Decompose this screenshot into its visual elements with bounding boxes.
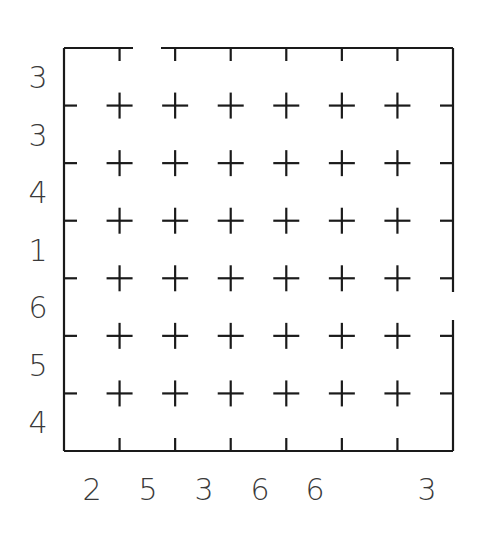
- left-clue-1: 3: [23, 121, 53, 151]
- plus-icon: [273, 323, 299, 349]
- plus-icon: [273, 93, 299, 119]
- plus-icon: [218, 93, 244, 119]
- plus-icon: [218, 323, 244, 349]
- plus-icon: [162, 150, 188, 176]
- plus-icon: [273, 208, 299, 234]
- plus-icon: [329, 93, 355, 119]
- plus-icon: [384, 323, 410, 349]
- plus-icon: [384, 93, 410, 119]
- bottom-clue-3: 6: [245, 475, 275, 505]
- plus-icon: [162, 208, 188, 234]
- plus-icon: [384, 380, 410, 406]
- plus-icon: [384, 208, 410, 234]
- plus-icon: [273, 150, 299, 176]
- plus-icon: [218, 208, 244, 234]
- plus-icon: [107, 150, 133, 176]
- plus-icon: [162, 380, 188, 406]
- left-clue-4: 6: [23, 293, 53, 323]
- left-clue-2: 4: [23, 178, 53, 208]
- bottom-clue-2: 3: [189, 475, 219, 505]
- plus-icon: [329, 208, 355, 234]
- plus-icon: [273, 265, 299, 291]
- bottom-clue-4: 6: [300, 475, 330, 505]
- puzzle-board: [0, 0, 482, 536]
- plus-icon: [162, 323, 188, 349]
- plus-icon: [162, 93, 188, 119]
- bottom-clue-1: 5: [133, 475, 163, 505]
- bottom-clue-0: 2: [77, 475, 107, 505]
- bottom-clue-6: 3: [412, 475, 442, 505]
- plus-icon: [107, 323, 133, 349]
- plus-icon: [107, 93, 133, 119]
- plus-icon: [218, 380, 244, 406]
- plus-icon: [329, 323, 355, 349]
- left-clue-0: 3: [23, 63, 53, 93]
- plus-icon: [162, 265, 188, 291]
- plus-icon: [384, 265, 410, 291]
- plus-icon: [329, 150, 355, 176]
- grid: [0, 0, 482, 536]
- plus-icon: [329, 380, 355, 406]
- plus-icon: [107, 380, 133, 406]
- plus-icon: [218, 265, 244, 291]
- plus-icon: [273, 380, 299, 406]
- left-clue-3: 1: [23, 236, 53, 266]
- plus-icon: [384, 150, 410, 176]
- plus-icon: [107, 208, 133, 234]
- plus-icon: [218, 150, 244, 176]
- plus-icon: [107, 265, 133, 291]
- left-clue-5: 5: [23, 351, 53, 381]
- left-clue-6: 4: [23, 408, 53, 438]
- plus-icon: [329, 265, 355, 291]
